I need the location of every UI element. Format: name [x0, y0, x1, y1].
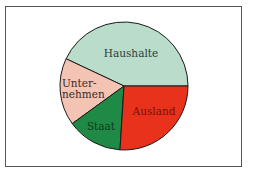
label-unternehmen-line2: nehmen	[62, 88, 105, 100]
label-ausland: Ausland	[132, 105, 176, 117]
label-haushalte: Haushalte	[104, 47, 158, 59]
slice-ausland	[120, 86, 188, 150]
label-staat: Staat	[87, 120, 116, 132]
pie-chart: Haushalte Unter- nehmen Staat Ausland	[0, 0, 255, 181]
